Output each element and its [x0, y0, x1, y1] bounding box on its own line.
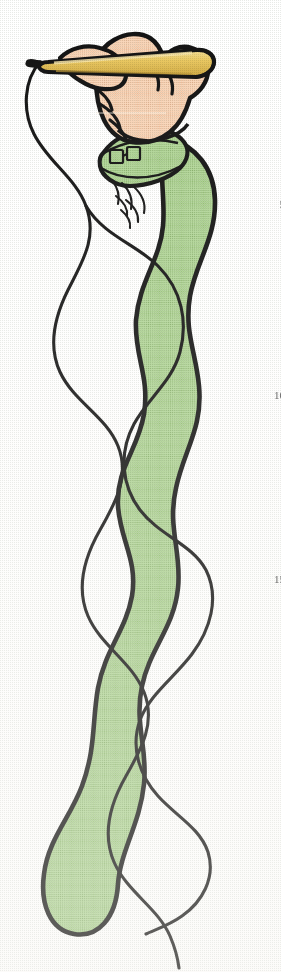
illustration-page: 5 10 15	[0, 0, 281, 972]
illustration-artwork	[0, 0, 281, 972]
